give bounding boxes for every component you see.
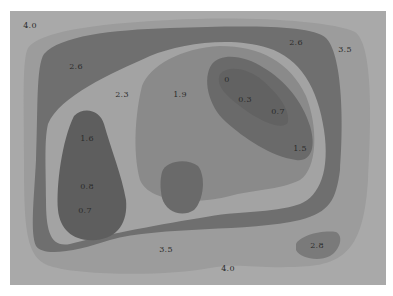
label-bottom-center: 4.0 xyxy=(221,264,235,273)
label-upper-left-band: 2.6 xyxy=(69,62,83,71)
center-basin xyxy=(161,161,203,213)
label-top-left: 4.0 xyxy=(23,21,37,30)
label-top-right-band: 2.6 xyxy=(289,38,303,47)
label-left-basin-bottom: 0.7 xyxy=(78,206,92,215)
label-left-basin-top: 1.6 xyxy=(80,134,94,143)
label-depression-top: 0 xyxy=(224,75,229,84)
label-inner-ring: 2.3 xyxy=(115,90,129,99)
label-center: 1.9 xyxy=(173,90,187,99)
label-right-inner: 1.5 xyxy=(293,144,307,153)
label-bottom-band: 3.5 xyxy=(159,245,173,254)
contour-map-graphic xyxy=(0,0,393,296)
label-top-right-outer: 3.5 xyxy=(338,45,352,54)
label-depression-mid: 0.3 xyxy=(238,95,252,104)
label-depression-right: 0.7 xyxy=(271,107,285,116)
contour-map xyxy=(0,0,393,296)
label-bottom-right-pit: 2.8 xyxy=(310,241,324,250)
label-left-basin-mid: 0.8 xyxy=(80,182,94,191)
